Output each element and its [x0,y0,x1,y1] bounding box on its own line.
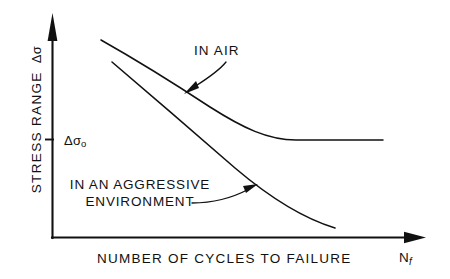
annotation-aggressive-line2: ENVIRONMENT [85,194,194,209]
y-axis-tick-label-fatigue-limit: Δσo [64,133,86,149]
annotation-aggressive-line1: IN AN AGGRESSIVE [70,177,210,192]
x-axis-title: NUMBER OF CYCLES TO FAILURE [97,251,352,266]
annotation-in-air: IN AIR [194,43,240,58]
annotation-aggressive-environment: IN AN AGGRESSIVEENVIRONMENT [60,177,220,210]
in-air-curve [101,40,383,140]
y-axis-title-symbol: Δσ [29,46,44,72]
tick-label-subscript: o [81,138,86,149]
x-axis-title-symbol: Nf [399,250,412,267]
x-axis-symbol-base: N [399,250,409,265]
in-air-leader-arrowhead [184,81,199,94]
tick-label-symbol: Δσ [64,133,81,148]
x-axis-symbol-subscript: f [409,256,412,267]
y-axis-title-text: STRESS RANGE [29,71,44,193]
y-axis-arrowhead [48,13,58,41]
x-axis-arrowhead [404,232,426,243]
in-air-leader-line [194,62,226,87]
y-axis-title: STRESS RANGE Δσ [29,40,44,200]
fatigue-sn-curve-figure: STRESS RANGE Δσ Δσo IN AIR IN AN AGGRESS… [0,0,450,279]
